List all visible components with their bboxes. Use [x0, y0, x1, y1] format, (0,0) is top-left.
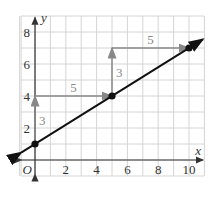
line-graph: 2468102468Oxy3535: [0, 0, 222, 197]
x-tick-label: 8: [155, 162, 162, 177]
data-point: [185, 44, 192, 51]
run-label: 5: [70, 80, 77, 95]
x-tick-label: 6: [124, 162, 131, 177]
data-point: [31, 140, 38, 147]
y-tick-label: 8: [24, 25, 31, 40]
rise-label: 3: [116, 65, 123, 80]
rise-label: 3: [39, 113, 46, 128]
y-axis-label: y: [39, 10, 47, 25]
data-point: [108, 92, 115, 99]
y-tick-label: 6: [24, 57, 31, 72]
x-tick-label: 10: [183, 162, 196, 177]
origin-label: O: [23, 162, 33, 177]
x-tick-label: 4: [93, 162, 100, 177]
y-tick-label: 2: [24, 121, 31, 136]
x-tick-label: 2: [63, 162, 70, 177]
run-label: 5: [147, 32, 154, 47]
y-tick-label: 4: [24, 89, 31, 104]
x-axis-label: x: [194, 143, 201, 158]
